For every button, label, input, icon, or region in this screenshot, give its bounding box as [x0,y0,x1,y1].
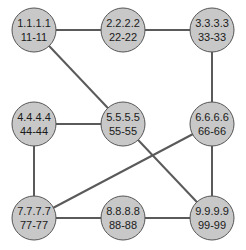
node-4[interactable]: 4.4.4.4 44-44 [12,102,56,146]
node-1-id: 11-11 [21,31,48,43]
diagram-svg: 1.1.1.1 11-11 2.2.2.2 22-22 3.3.3.3 33-3… [0,0,246,250]
node-7-address: 7.7.7.7 [17,205,51,217]
node-6-address: 6.6.6.6 [195,111,229,123]
network-diagram: 1.1.1.1 11-11 2.2.2.2 22-22 3.3.3.3 33-3… [0,0,246,250]
node-9[interactable]: 9.9.9.9 99-99 [190,196,234,240]
nodes-layer: 1.1.1.1 11-11 2.2.2.2 22-22 3.3.3.3 33-3… [12,8,234,240]
node-7[interactable]: 7.7.7.7 77-77 [12,196,56,240]
node-9-id: 99-99 [198,219,226,231]
node-1[interactable]: 1.1.1.1 11-11 [12,8,56,52]
node-4-address: 4.4.4.4 [17,111,51,123]
node-8-id: 88-88 [109,219,137,231]
node-5-address: 5.5.5.5 [106,111,140,123]
node-8[interactable]: 8.8.8.8 88-88 [101,196,145,240]
node-5-id: 55-55 [109,125,137,137]
node-2-id: 22-22 [109,31,137,43]
node-3-address: 3.3.3.3 [195,17,229,29]
node-2[interactable]: 2.2.2.2 22-22 [101,8,145,52]
node-7-id: 77-77 [20,219,48,231]
node-6-id: 66-66 [198,125,226,137]
node-4-id: 44-44 [20,125,48,137]
node-1-address: 1.1.1.1 [17,17,51,29]
node-3-id: 33-33 [198,31,226,43]
node-5[interactable]: 5.5.5.5 55-55 [101,102,145,146]
node-9-address: 9.9.9.9 [195,205,229,217]
node-3[interactable]: 3.3.3.3 33-33 [190,8,234,52]
node-2-address: 2.2.2.2 [106,17,140,29]
node-8-address: 8.8.8.8 [106,205,140,217]
node-6[interactable]: 6.6.6.6 66-66 [190,102,234,146]
